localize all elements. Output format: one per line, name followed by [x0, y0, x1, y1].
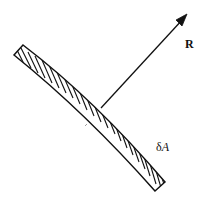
surface-element-outline — [14, 45, 165, 191]
area-symbol: A — [162, 140, 169, 154]
vector-r-label: R — [185, 38, 194, 50]
surface-element-diagram: R δA — [0, 0, 203, 201]
area-element-label: δA — [156, 141, 169, 153]
diagram-graphics — [0, 0, 203, 201]
vector-r-shaft — [101, 19, 183, 108]
stray-mark — [85, 124, 87, 126]
hatching — [14, 44, 168, 198]
